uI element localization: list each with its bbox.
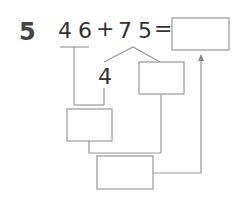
answer-box[interactable] bbox=[172, 18, 229, 50]
split-remainder-box[interactable] bbox=[139, 62, 184, 94]
final-sum-box[interactable] bbox=[97, 156, 153, 189]
arrow-up-icon bbox=[198, 54, 204, 61]
diagram-lines bbox=[0, 0, 241, 203]
tens-sum-box[interactable] bbox=[67, 109, 112, 141]
